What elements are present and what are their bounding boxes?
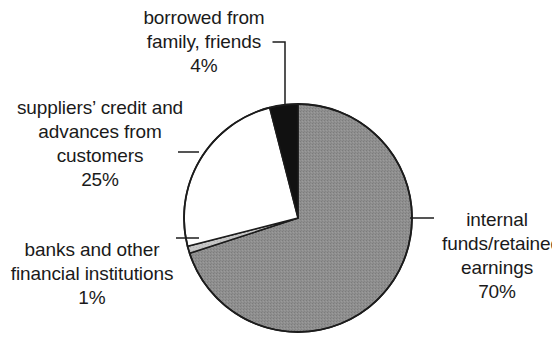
slice-label-suppliers-line1: suppliers’ credit and: [15, 96, 185, 120]
slice-label-internal-line3: earnings: [442, 256, 552, 280]
slice-label-banks-percent: 1%: [4, 286, 180, 310]
slice-label-internal-line1: internal: [442, 208, 552, 232]
slice-label-banks-line1: banks and other: [4, 238, 180, 262]
slice-label-borrowed-line2: family, friends: [131, 30, 277, 54]
slice-label-suppliers-line2: advances from: [15, 120, 185, 144]
slice-label-borrowed: borrowed from family, friends 4%: [131, 6, 277, 78]
slice-label-suppliers-percent: 25%: [15, 168, 185, 192]
slice-label-banks: banks and other financial institutions 1…: [4, 238, 180, 310]
slice-label-suppliers: suppliers’ credit and advances from cust…: [15, 96, 185, 192]
slice-label-internal-percent: 70%: [442, 280, 552, 304]
slice-label-internal-funds: internal funds/retained earnings 70%: [442, 208, 552, 304]
slice-label-internal-line2: funds/retained: [442, 232, 552, 256]
pie-chart-figure: borrowed from family, friends 4% supplie…: [0, 0, 552, 340]
slice-label-borrowed-line1: borrowed from: [131, 6, 277, 30]
slice-label-suppliers-line3: customers: [15, 144, 185, 168]
slice-label-borrowed-percent: 4%: [131, 54, 277, 78]
slice-label-banks-line2: financial institutions: [4, 262, 180, 286]
